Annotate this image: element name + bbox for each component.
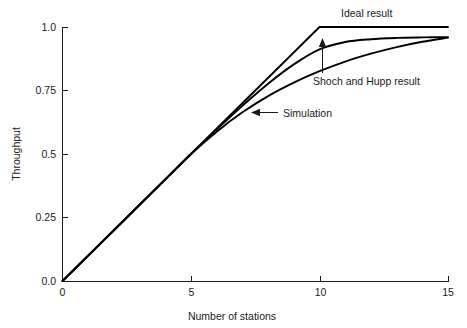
y-tick-label-0.5: 0.5 — [41, 148, 56, 160]
y-tick-label-0.25: 0.25 — [36, 211, 57, 223]
y-axis-title: Throughput — [10, 127, 22, 181]
x-tick-label-10: 10 — [315, 286, 327, 298]
chart-figure: 1.0 0.75 0.5 0.25 0.0 0 5 10 15 Number o… — [0, 0, 467, 328]
y-tick-label-1.0: 1.0 — [41, 21, 56, 33]
x-tick-label-5: 5 — [189, 286, 195, 298]
x-tick-label-15: 15 — [442, 286, 454, 298]
y-tick-label-0.0: 0.0 — [41, 275, 56, 287]
y-tick-label-0.75: 0.75 — [36, 84, 57, 96]
x-tick-label-0: 0 — [60, 286, 66, 298]
x-axis-title: Number of stations — [188, 310, 276, 322]
annotation-label-ideal-result: Ideal result — [341, 7, 392, 19]
series-line-ideal-result — [63, 27, 449, 281]
chart-canvas: 1.0 0.75 0.5 0.25 0.0 0 5 10 15 Number o… — [0, 0, 467, 328]
annotation-label-simulation: Simulation — [283, 107, 332, 119]
series-line-shoch-and-hupp-result — [63, 37, 449, 281]
annotation-label-shoch-and-hupp-result: Shoch and Hupp result — [313, 75, 420, 87]
annotation-arrowhead-shoch-and-hupp — [319, 38, 326, 47]
annotation-arrowhead-simulation — [251, 109, 260, 116]
